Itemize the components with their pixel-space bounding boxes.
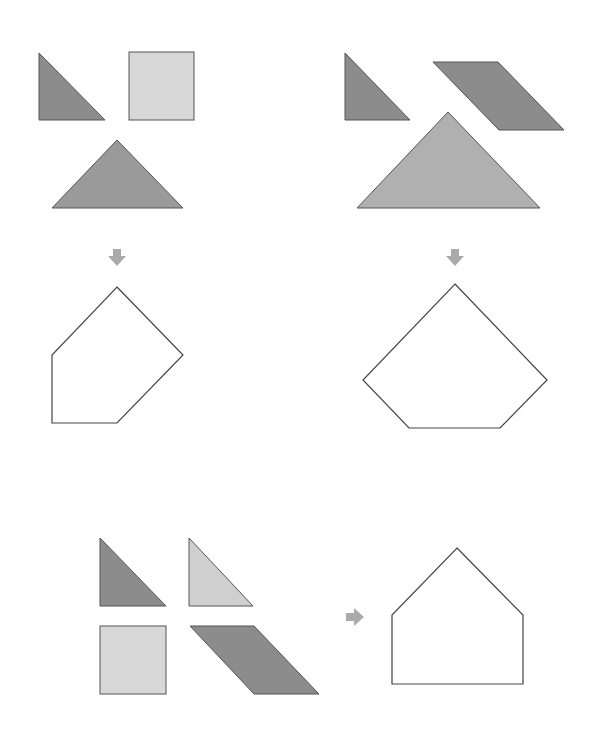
square-light [100, 626, 166, 694]
large-triangle [52, 140, 183, 208]
pentagon-right-outline [363, 284, 547, 428]
group-bottom-pieces [100, 538, 319, 694]
small-triangle-light [189, 538, 253, 606]
house-pentagon-outline [392, 548, 523, 684]
down-arrow-icon [446, 249, 464, 266]
small-triangle-dark [100, 538, 166, 606]
group-top-left-pieces [39, 52, 194, 208]
small-triangle-dark [345, 53, 410, 120]
parallelogram [190, 626, 319, 694]
pentagon-left-outline [52, 287, 183, 423]
down-arrow-icon [108, 249, 126, 266]
small-triangle-dark [39, 53, 105, 120]
square-light [129, 52, 194, 120]
group-top-right-pieces [345, 53, 564, 208]
tangram-diagram [0, 0, 602, 730]
right-arrow-icon [346, 608, 364, 626]
